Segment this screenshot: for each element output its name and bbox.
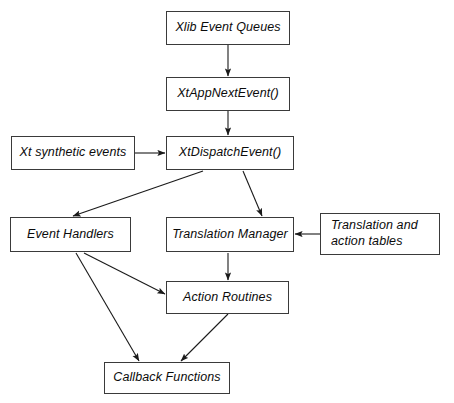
- node-translation-manager[interactable]: Translation Manager: [166, 217, 294, 252]
- edge-event-handlers-to-callback-functions: [76, 253, 139, 361]
- node-xtdispatchevent[interactable]: XtDispatchEvent(): [166, 136, 294, 170]
- node-label: Event Handlers: [27, 227, 114, 243]
- node-label: Xt synthetic events: [20, 145, 127, 161]
- node-label: XtAppNextEvent(): [177, 86, 279, 102]
- node-label-line2: action tables: [331, 234, 418, 250]
- edge-action-routines-to-callback-functions: [181, 314, 228, 361]
- node-label-wrapper: Translation and action tables: [331, 218, 418, 249]
- node-callback-functions[interactable]: Callback Functions: [104, 362, 230, 394]
- edge-xtdispatchevent-to-translation-manager: [243, 171, 262, 216]
- node-xtappnextevent[interactable]: XtAppNextEvent(): [166, 77, 290, 111]
- edge-xtdispatchevent-to-event-handlers: [73, 171, 203, 216]
- node-event-handlers[interactable]: Event Handlers: [10, 217, 131, 252]
- diagram-edges: [0, 0, 454, 403]
- node-label: Callback Functions: [113, 370, 220, 386]
- node-xt-synthetic-events[interactable]: Xt synthetic events: [11, 136, 135, 170]
- node-xlib-event-queues[interactable]: Xlib Event Queues: [166, 11, 290, 45]
- node-label: Xlib Event Queues: [175, 20, 280, 36]
- node-label: Translation Manager: [172, 227, 288, 243]
- node-translation-action-tables[interactable]: Translation and action tables: [320, 213, 440, 255]
- node-label: Action Routines: [183, 290, 272, 306]
- node-label: Translation and: [331, 218, 418, 232]
- node-label: XtDispatchEvent(): [179, 145, 281, 161]
- diagram-canvas: Xlib Event Queues XtAppNextEvent() Xt sy…: [0, 0, 454, 403]
- node-action-routines[interactable]: Action Routines: [166, 281, 289, 314]
